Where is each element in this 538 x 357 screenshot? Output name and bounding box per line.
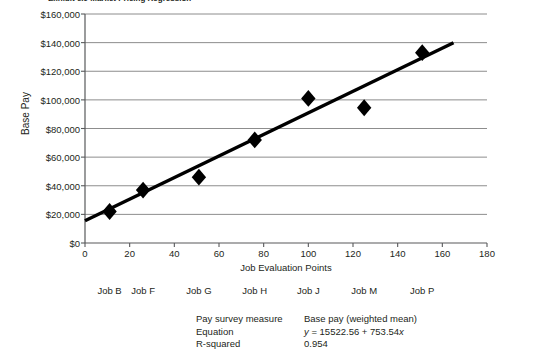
data-point-job-m xyxy=(357,99,371,116)
x-axis-ticks xyxy=(85,243,487,247)
stats-key-rsquared: R-squared xyxy=(196,338,304,351)
data-point-job-g xyxy=(192,169,206,186)
stats-value-equation: y = 15522.56 + 753.54x xyxy=(304,326,417,339)
regression-stats-block: Pay survey measure Base pay (weighted me… xyxy=(196,313,417,351)
stats-row-equation: Equation y = 15522.56 + 753.54x xyxy=(196,326,417,339)
data-point-job-j xyxy=(301,90,315,107)
stats-value-measure: Base pay (weighted mean) xyxy=(304,313,417,326)
equation-x-symbol: x xyxy=(399,326,404,337)
data-point-job-h xyxy=(248,132,262,149)
stats-key-equation: Equation xyxy=(196,326,304,339)
stats-row-measure: Pay survey measure Base pay (weighted me… xyxy=(196,313,417,326)
stats-key-measure: Pay survey measure xyxy=(196,313,304,326)
equation-body: = 15522.56 + 753.54 xyxy=(309,326,399,337)
chart-figure: Exhibit 6.9 Market Pricing Regression Ba… xyxy=(0,0,538,357)
plot-area xyxy=(0,0,538,357)
stats-row-rsquared: R-squared 0.954 xyxy=(196,338,417,351)
stats-value-rsquared: 0.954 xyxy=(304,338,417,351)
